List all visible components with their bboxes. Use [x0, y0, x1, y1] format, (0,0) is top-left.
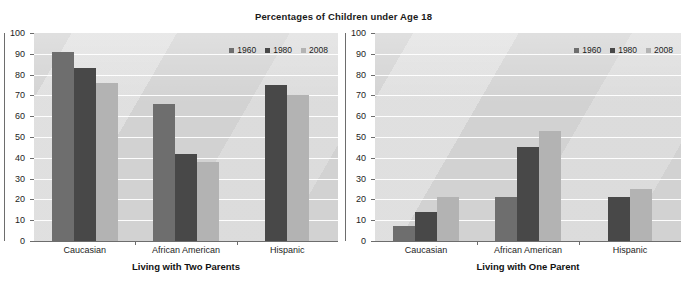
- legend-item-2008: 2008: [646, 45, 673, 55]
- legend-item-1980: 1980: [610, 45, 637, 55]
- legend-item-1980: 1980: [265, 45, 292, 55]
- bar-1960: [495, 197, 517, 241]
- x-axis-tick-label: Hispanic: [613, 245, 648, 255]
- bar-2008: [539, 131, 561, 241]
- y-axis-tick-label: 0: [361, 237, 366, 246]
- bar-2008: [630, 189, 652, 241]
- chart-panel-two-parents: 1009080706050403020100 CaucasianAfrican …: [4, 33, 340, 291]
- y-axis-line-right: [345, 33, 346, 241]
- legend-item-1960: 1960: [574, 45, 601, 55]
- bar-2008: [96, 83, 118, 241]
- x-axis-tick-mark: [579, 241, 580, 245]
- x-axis-tick-label: African American: [152, 245, 220, 255]
- x-axis-line-left: [34, 241, 338, 242]
- y-axis-tick-label: 30: [15, 174, 25, 183]
- x-axis-tick-label: Caucasian: [405, 245, 448, 255]
- plot-area-right: [375, 33, 681, 241]
- bar-1980: [608, 197, 630, 241]
- bar-1980: [517, 147, 539, 241]
- legend-swatch-icon: [646, 48, 651, 53]
- x-axis-title-left: Living with Two Parents: [34, 261, 338, 272]
- bar-1980: [265, 85, 287, 241]
- y-axis-tick-label: 90: [15, 49, 25, 58]
- bar-group-container: [375, 33, 681, 241]
- x-axis-labels-left: CaucasianAfrican AmericanHispanic: [34, 245, 338, 259]
- y-axis-tick-label: 10: [356, 216, 366, 225]
- legend-swatch-icon: [610, 48, 615, 53]
- y-axis-tick-label: 90: [356, 49, 366, 58]
- legend-item-label: 2008: [309, 45, 328, 55]
- y-axis-tick-label: 70: [15, 91, 25, 100]
- legend-item-label: 1960: [582, 45, 601, 55]
- y-axis-tick-label: 10: [15, 216, 25, 225]
- y-axis-tick-label: 80: [15, 70, 25, 79]
- y-axis-tick-label: 80: [356, 70, 366, 79]
- chart-page: Percentages of Children under Age 18 100…: [0, 0, 687, 298]
- y-axis-left: 1009080706050403020100: [4, 33, 30, 241]
- legend-left: 196019802008: [229, 45, 328, 55]
- x-axis-line-right: [375, 241, 681, 242]
- y-axis-right: 1009080706050403020100: [345, 33, 371, 241]
- plot-area-left: [34, 33, 338, 241]
- legend-item-label: 1980: [273, 45, 292, 55]
- y-axis-tick-label: 50: [15, 133, 25, 142]
- y-axis-tick-label: 50: [356, 133, 366, 142]
- x-axis-tick-label: African American: [494, 245, 562, 255]
- x-axis-labels-right: CaucasianAfrican AmericanHispanic: [375, 245, 681, 259]
- y-axis-tick-label: 20: [356, 195, 366, 204]
- legend-item-label: 1960: [237, 45, 256, 55]
- x-axis-tick-mark: [477, 241, 478, 245]
- legend-swatch-icon: [301, 48, 306, 53]
- bar-2008: [197, 162, 219, 241]
- bar-1960: [52, 52, 74, 241]
- y-axis-tick-label: 40: [356, 153, 366, 162]
- y-axis-tick-label: 30: [356, 174, 366, 183]
- legend-item-label: 1980: [618, 45, 637, 55]
- bar-1960: [393, 226, 415, 241]
- y-axis-tick-label: 60: [15, 112, 25, 121]
- y-axis-line-left: [4, 33, 5, 241]
- y-axis-tick-label: 100: [10, 29, 25, 38]
- y-axis-tick-label: 40: [15, 153, 25, 162]
- x-axis-title-right: Living with One Parent: [375, 261, 681, 272]
- y-axis-tick-label: 0: [20, 237, 25, 246]
- y-axis-tick-label: 60: [356, 112, 366, 121]
- legend-swatch-icon: [574, 48, 579, 53]
- bar-group-container: [34, 33, 338, 241]
- y-axis-tick-label: 100: [351, 29, 366, 38]
- bar-2008: [437, 197, 459, 241]
- x-axis-tick-label: Hispanic: [270, 245, 305, 255]
- bar-1980: [175, 154, 197, 241]
- legend-swatch-icon: [265, 48, 270, 53]
- x-axis-tick-mark: [237, 241, 238, 245]
- legend-item-label: 2008: [654, 45, 673, 55]
- bar-2008: [287, 95, 309, 241]
- bar-1960: [153, 104, 175, 241]
- y-axis-tick-label: 70: [356, 91, 366, 100]
- chart-panels: 1009080706050403020100 CaucasianAfrican …: [0, 33, 687, 291]
- legend-swatch-icon: [229, 48, 234, 53]
- legend-item-1960: 1960: [229, 45, 256, 55]
- x-axis-tick-label: Caucasian: [63, 245, 106, 255]
- page-title: Percentages of Children under Age 18: [0, 11, 687, 22]
- legend-item-2008: 2008: [301, 45, 328, 55]
- chart-panel-one-parent: 1009080706050403020100 CaucasianAfrican …: [345, 33, 683, 291]
- legend-right: 196019802008: [574, 45, 673, 55]
- bar-1980: [415, 212, 437, 241]
- x-axis-tick-mark: [135, 241, 136, 245]
- bar-1980: [74, 68, 96, 241]
- y-axis-tick-label: 20: [15, 195, 25, 204]
